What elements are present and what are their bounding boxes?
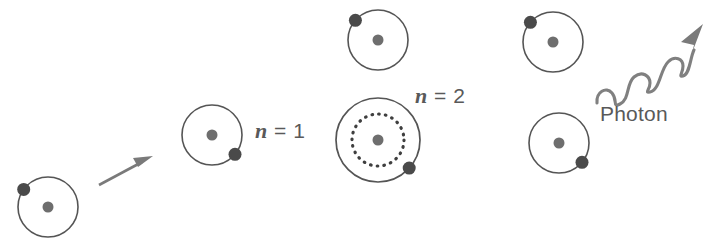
atom-n2-excited [336,98,420,182]
nucleus [207,130,218,141]
label-n1-variable: n [255,118,268,143]
incoming-arrow [99,156,153,185]
electron [349,14,362,27]
photon-arrow-head [681,24,703,53]
atom-after-emission [529,113,589,173]
photon-wave-arrow [597,24,703,105]
label-n1-value: = 1 [268,119,306,142]
atom-excited-upper-right [523,12,583,72]
atom-absorbing [348,10,408,70]
label-photon: Photon [600,103,668,124]
electron [576,156,589,169]
label-n-equals-1: n = 1 [255,120,305,142]
electron [229,148,242,161]
nucleus [373,135,384,146]
atom-n1 [182,105,242,165]
electron [17,183,30,196]
label-n2-variable: n [415,83,428,108]
nucleus [43,202,54,213]
label-n2-value: = 2 [428,84,466,107]
nucleus [554,138,565,149]
arrow-shaft [99,162,142,185]
atom-ground-state [17,177,78,237]
label-n-equals-2: n = 2 [415,85,465,107]
photon-wave-path [597,50,694,105]
nucleus [548,37,559,48]
electron [524,16,537,29]
bohr-model-figure: n = 1 n = 2 Photon [0,0,722,243]
electron [403,162,416,175]
nucleus [373,35,384,46]
